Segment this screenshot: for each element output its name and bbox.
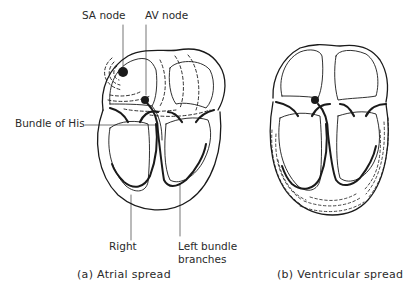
heart-ventricular-spread (270, 45, 388, 215)
right-branch-label: Right (109, 240, 137, 252)
left-bundle-label-line1: Left bundle (178, 240, 237, 252)
av-node-dot-b (311, 96, 319, 104)
heart-atrial-spread (85, 25, 225, 240)
caption-ventricular-spread: (b) Ventricular spread (277, 268, 403, 281)
left-bundle-label-line2: branches (178, 253, 226, 265)
av-node-label: AV node (145, 9, 188, 21)
bundle-of-his-label: Bundle of His (15, 117, 85, 129)
sa-node-dot (118, 67, 128, 77)
sa-node-label: SA node (82, 9, 126, 21)
atrial-wavefronts (105, 55, 210, 116)
caption-atrial-spread: (a) Atrial spread (77, 268, 171, 281)
